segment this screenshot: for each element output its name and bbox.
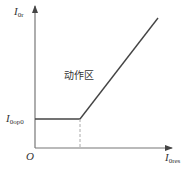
threshold-label-sub: 0op0 bbox=[10, 118, 24, 126]
origin-label: O bbox=[26, 151, 34, 162]
x-axis-label-sub: 0res bbox=[169, 157, 181, 165]
y-axis-label: I0r bbox=[14, 6, 24, 19]
diagram-canvas bbox=[0, 0, 196, 172]
threshold-label: I0op0 bbox=[6, 113, 24, 126]
x-axis-label: I0res bbox=[165, 152, 180, 165]
y-axis-label-sub: 0r bbox=[18, 11, 24, 19]
operating-region-label: 动作区 bbox=[64, 67, 94, 82]
operating-characteristic-diagram: I0r I0op0 O I0res 动作区 bbox=[0, 0, 196, 172]
